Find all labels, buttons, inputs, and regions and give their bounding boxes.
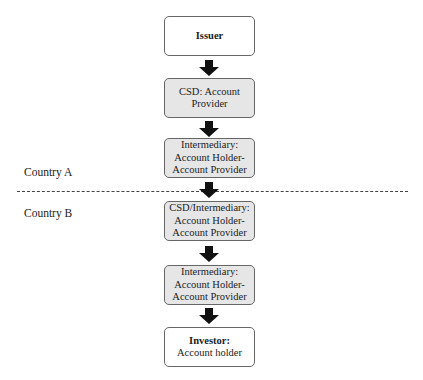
node-intermediary-country-b: Intermediary: Account Holder- Account Pr… <box>164 265 255 305</box>
node-line2: Account Holder- <box>174 215 245 228</box>
arrow-down-icon <box>199 60 219 76</box>
node-line3: Account Provider <box>172 291 246 304</box>
node-investor: Investor: Account holder <box>164 327 255 367</box>
node-csd-line2: Provider <box>191 98 227 111</box>
node-issuer-label: Issuer <box>196 30 223 43</box>
node-line2: Account Holder- <box>174 152 245 165</box>
node-line1: Intermediary: <box>181 266 238 279</box>
node-line1: Intermediary: <box>181 139 238 152</box>
node-line2: Account Holder- <box>174 279 245 292</box>
country-b-label: Country B <box>24 207 72 219</box>
node-line3: Account Provider <box>172 164 246 177</box>
node-csd: CSD: Account Provider <box>164 78 255 118</box>
country-a-label: Country A <box>24 166 72 178</box>
arrow-down-icon <box>199 121 219 137</box>
node-line3: Account Provider <box>172 227 246 240</box>
node-intermediary-country-a: Intermediary: Account Holder- Account Pr… <box>164 138 255 178</box>
arrow-down-icon <box>199 246 219 262</box>
node-issuer: Issuer <box>164 16 255 56</box>
node-investor-title: Investor: <box>189 335 230 348</box>
node-line1: CSD/Intermediary: <box>169 202 249 215</box>
arrow-down-icon <box>199 308 219 324</box>
node-csd-line1: CSD: Account <box>179 86 240 99</box>
arrow-down-icon <box>199 182 219 198</box>
node-csd-intermediary-country-b: CSD/Intermediary: Account Holder- Accoun… <box>164 201 255 241</box>
node-investor-subtitle: Account holder <box>177 347 242 360</box>
